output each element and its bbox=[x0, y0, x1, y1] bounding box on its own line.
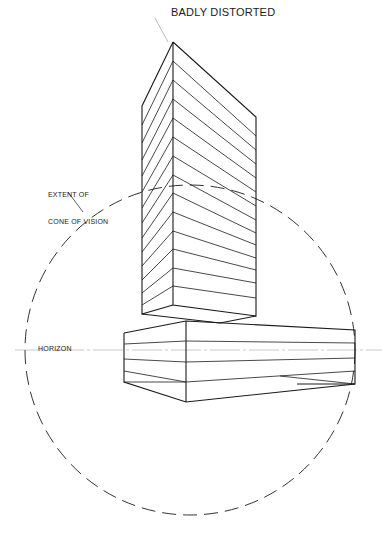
title-label: BADLY DISTORTED bbox=[171, 6, 275, 18]
cone-label-line-2: CONE OF VISION bbox=[48, 217, 108, 226]
low-block-courses bbox=[124, 341, 355, 384]
tall-block-courses bbox=[142, 61, 256, 305]
cone-label-line-1: EXTENT OF bbox=[48, 190, 108, 199]
title-leader bbox=[155, 18, 168, 42]
perspective-drawing bbox=[0, 0, 382, 538]
cone-of-vision-label: EXTENT OF CONE OF VISION bbox=[48, 172, 108, 235]
low-block bbox=[124, 321, 355, 402]
horizon-label: HORIZON bbox=[38, 345, 72, 352]
